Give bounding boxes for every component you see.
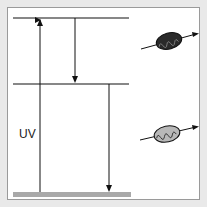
- light-photon-icon: [140, 123, 199, 144]
- uv-arrowhead-icon: [37, 19, 43, 26]
- uv-label: UV: [19, 127, 36, 141]
- energy-diagram: [0, 0, 207, 207]
- ground-state-bar: [13, 192, 131, 197]
- dark-photon-icon: [141, 30, 199, 52]
- down-arrowhead-icon: [106, 185, 112, 192]
- down-arrowhead-icon: [72, 76, 78, 83]
